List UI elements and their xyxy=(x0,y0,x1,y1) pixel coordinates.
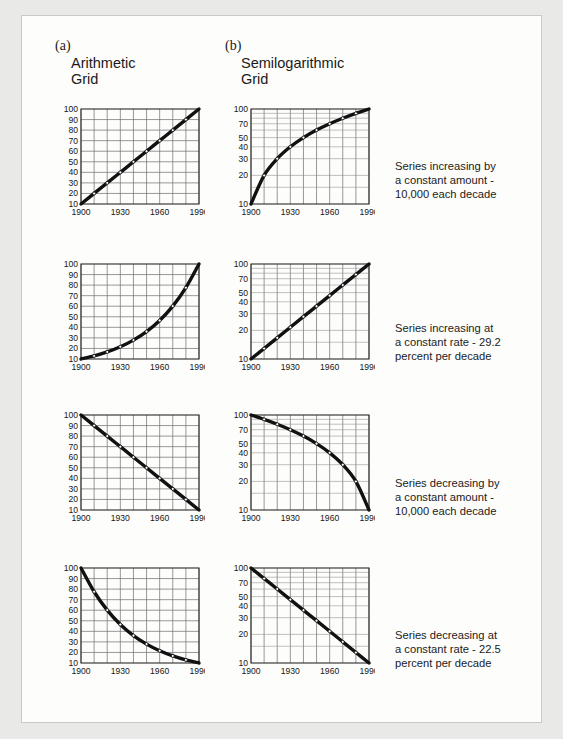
svg-text:80: 80 xyxy=(68,584,78,594)
chart-row3-semilog: 1020304050701001900193019601990 xyxy=(225,408,375,526)
svg-text:1900: 1900 xyxy=(71,666,90,676)
caption-row2: Series increasing at a constant rate - 2… xyxy=(395,321,545,364)
panel-title-arithmetic: Arithmetic Grid xyxy=(71,56,135,87)
svg-text:1900: 1900 xyxy=(71,513,90,523)
svg-text:80: 80 xyxy=(68,431,78,441)
chart-row4-arithmetic: 1020304050607080901001900193019601990 xyxy=(55,561,205,679)
svg-text:1930: 1930 xyxy=(281,362,300,372)
svg-text:100: 100 xyxy=(234,104,249,114)
svg-text:70: 70 xyxy=(68,291,78,301)
svg-text:20: 20 xyxy=(238,170,248,180)
svg-text:50: 50 xyxy=(68,463,78,473)
svg-text:40: 40 xyxy=(238,142,248,152)
svg-text:1930: 1930 xyxy=(111,362,130,372)
svg-text:30: 30 xyxy=(238,154,248,164)
svg-text:20: 20 xyxy=(68,647,78,657)
svg-text:100: 100 xyxy=(234,259,249,269)
svg-text:70: 70 xyxy=(68,442,78,452)
svg-text:80: 80 xyxy=(68,280,78,290)
svg-text:1930: 1930 xyxy=(111,207,130,217)
caption-row1: Series increasing by a constant amount -… xyxy=(395,159,545,202)
svg-text:20: 20 xyxy=(68,188,78,198)
svg-text:90: 90 xyxy=(68,421,78,431)
svg-text:100: 100 xyxy=(64,563,79,573)
svg-text:100: 100 xyxy=(64,410,79,420)
svg-text:50: 50 xyxy=(238,592,248,602)
svg-text:30: 30 xyxy=(68,333,78,343)
svg-text:1990: 1990 xyxy=(189,666,205,676)
chart-row4-semilog: 1020304050701001900193019601990 xyxy=(225,561,375,679)
svg-text:20: 20 xyxy=(238,629,248,639)
caption-row3: Series decreasing by a constant amount -… xyxy=(395,476,545,519)
svg-text:90: 90 xyxy=(68,270,78,280)
svg-text:40: 40 xyxy=(238,297,248,307)
svg-text:1990: 1990 xyxy=(359,666,375,676)
chart-row1-semilog: 1020304050701001900193019601990 xyxy=(225,102,375,220)
svg-text:100: 100 xyxy=(64,259,79,269)
svg-text:1990: 1990 xyxy=(189,207,205,217)
svg-text:1900: 1900 xyxy=(71,362,90,372)
svg-text:40: 40 xyxy=(68,473,78,483)
svg-text:50: 50 xyxy=(238,439,248,449)
svg-text:60: 60 xyxy=(68,301,78,311)
svg-text:80: 80 xyxy=(68,125,78,135)
svg-text:30: 30 xyxy=(238,613,248,623)
svg-text:1960: 1960 xyxy=(150,362,169,372)
svg-text:20: 20 xyxy=(238,325,248,335)
chart-row2-arithmetic: 1020304050607080901001900193019601990 xyxy=(55,257,205,375)
svg-text:1930: 1930 xyxy=(281,207,300,217)
svg-text:40: 40 xyxy=(238,601,248,611)
panel-title-semilog: Semilogarithmic Grid xyxy=(241,56,344,87)
svg-text:1960: 1960 xyxy=(320,207,339,217)
svg-text:40: 40 xyxy=(68,167,78,177)
svg-text:1930: 1930 xyxy=(281,666,300,676)
svg-text:1960: 1960 xyxy=(320,666,339,676)
svg-text:1900: 1900 xyxy=(241,362,260,372)
svg-text:1960: 1960 xyxy=(320,513,339,523)
svg-text:70: 70 xyxy=(68,136,78,146)
svg-text:30: 30 xyxy=(68,178,78,188)
svg-text:1960: 1960 xyxy=(320,362,339,372)
svg-text:1900: 1900 xyxy=(241,513,260,523)
svg-text:20: 20 xyxy=(68,494,78,504)
svg-text:1900: 1900 xyxy=(71,207,90,217)
svg-text:1990: 1990 xyxy=(359,362,375,372)
svg-text:100: 100 xyxy=(234,563,249,573)
svg-text:90: 90 xyxy=(68,574,78,584)
figure-page: (a) Arithmetic Grid (b) Semilogarithmic … xyxy=(22,16,541,722)
svg-text:70: 70 xyxy=(238,274,248,284)
svg-text:30: 30 xyxy=(68,637,78,647)
svg-text:100: 100 xyxy=(64,104,79,114)
svg-text:50: 50 xyxy=(68,616,78,626)
svg-text:60: 60 xyxy=(68,452,78,462)
svg-text:50: 50 xyxy=(68,312,78,322)
figure-canvas: (a) Arithmetic Grid (b) Semilogarithmic … xyxy=(22,16,541,722)
chart-row3-arithmetic: 1020304050607080901001900193019601990 xyxy=(55,408,205,526)
chart-row1-arithmetic: 1020304050607080901001900193019601990 xyxy=(55,102,205,220)
svg-text:50: 50 xyxy=(238,133,248,143)
svg-text:1930: 1930 xyxy=(111,666,130,676)
svg-text:60: 60 xyxy=(68,605,78,615)
svg-text:70: 70 xyxy=(68,595,78,605)
panel-label-b: (b) xyxy=(225,38,241,54)
svg-text:70: 70 xyxy=(238,119,248,129)
svg-text:40: 40 xyxy=(68,626,78,636)
svg-text:60: 60 xyxy=(68,146,78,156)
svg-text:30: 30 xyxy=(238,309,248,319)
svg-text:90: 90 xyxy=(68,115,78,125)
svg-text:1990: 1990 xyxy=(189,513,205,523)
svg-text:70: 70 xyxy=(238,578,248,588)
caption-row4: Series decreasing at a constant rate - 2… xyxy=(395,628,545,671)
svg-text:30: 30 xyxy=(68,484,78,494)
svg-text:20: 20 xyxy=(238,476,248,486)
svg-text:30: 30 xyxy=(238,460,248,470)
svg-text:40: 40 xyxy=(238,448,248,458)
panel-label-a: (a) xyxy=(55,38,71,54)
svg-text:1930: 1930 xyxy=(111,513,130,523)
svg-text:1960: 1960 xyxy=(150,513,169,523)
svg-text:1960: 1960 xyxy=(150,207,169,217)
svg-text:40: 40 xyxy=(68,322,78,332)
svg-text:1990: 1990 xyxy=(359,207,375,217)
svg-text:70: 70 xyxy=(238,425,248,435)
svg-text:1990: 1990 xyxy=(189,362,205,372)
